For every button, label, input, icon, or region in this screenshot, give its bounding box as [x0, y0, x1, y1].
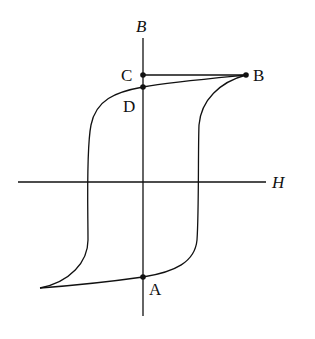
point-c-dot: [140, 72, 146, 78]
point-a-dot: [140, 274, 146, 280]
point-d-dot: [140, 84, 146, 90]
point-d-label: D: [123, 97, 135, 116]
axis-label-b: B: [136, 17, 147, 36]
point-b-label: B: [253, 66, 264, 85]
axis-label-h: H: [271, 173, 286, 192]
point-b-dot: [243, 72, 249, 78]
point-c-label: C: [121, 66, 132, 85]
point-a-label: A: [149, 280, 162, 299]
hysteresis-diagram: B H C B D A: [0, 0, 315, 339]
